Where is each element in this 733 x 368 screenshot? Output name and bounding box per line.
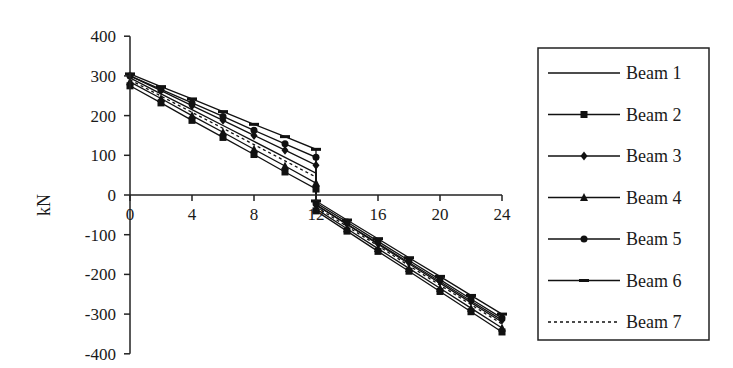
shear-force-chart: 4003002001000-100-200-300-40004812162024… [0,0,733,368]
circle-marker-icon [220,113,227,120]
legend-label: Beam 3 [626,146,682,166]
y-axis-title: kN [34,194,54,216]
triangle-marker-icon [188,111,196,119]
legend-box [538,48,709,340]
y-tick-label: -100 [85,226,116,245]
legend-label: Beam 6 [626,271,682,291]
bar-marker-icon [466,294,476,297]
x-tick-label: 8 [250,205,259,224]
legend-label: Beam 2 [626,105,682,125]
circle-marker-icon [282,140,289,147]
y-tick-label: -400 [85,345,116,364]
bar-marker-icon [218,110,228,113]
bar-marker-icon [156,85,166,88]
axes: 4003002001000-100-200-300-40004812162024 [85,27,511,364]
bar-marker-icon [373,237,383,240]
x-tick-label: 4 [188,205,197,224]
bar-marker-icon [497,313,507,316]
y-tick-label: 200 [91,107,117,126]
y-tick-label: 0 [108,186,117,205]
bar-marker-icon [435,275,445,278]
square-marker-icon [581,111,588,118]
legend-label: Beam 7 [626,312,682,332]
y-tick-label: 100 [91,146,117,165]
triangle-marker-icon [498,323,506,331]
triangle-marker-icon [281,162,289,170]
bar-marker-icon [280,135,290,138]
legend-label: Beam 4 [626,188,682,208]
x-tick-label: 12 [308,205,325,224]
legend-label: Beam 1 [626,63,682,83]
y-tick-label: 300 [91,67,117,86]
circle-marker-icon [581,236,588,243]
bar-marker-icon [249,123,259,126]
square-marker-icon [282,168,289,175]
series-beam-6 [125,72,507,315]
circle-marker-icon [251,127,258,134]
bar-marker-icon [311,148,321,151]
bar-marker-icon [342,219,352,222]
x-tick-label: 16 [370,205,387,224]
bar-marker-icon [187,97,197,100]
plot-area [125,71,507,335]
legend-label: Beam 5 [626,229,682,249]
circle-marker-icon [499,315,506,322]
y-tick-label: -200 [85,265,116,284]
x-tick-label: 20 [432,205,449,224]
bar-marker-icon [579,279,589,282]
x-tick-label: 0 [126,205,135,224]
y-tick-label: 400 [91,27,117,46]
triangle-marker-icon [250,145,258,153]
bar-marker-icon [404,256,414,259]
x-tick-label: 24 [494,205,512,224]
series-line [130,74,502,314]
triangle-marker-icon [219,128,227,136]
y-tick-label: -300 [85,305,116,324]
legend: Beam 1Beam 2Beam 3Beam 4Beam 5Beam 6Beam… [538,48,709,340]
